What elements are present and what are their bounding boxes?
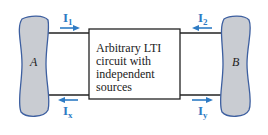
box-description: Arbitrary LTI circuit with independent s… — [96, 42, 180, 94]
box-text-line: sources — [96, 81, 180, 94]
network-a-label: A — [30, 55, 37, 70]
current-label-i2: I2 — [198, 11, 208, 27]
current-label-iy: Iy — [198, 104, 208, 120]
network-b-label: B — [232, 55, 239, 70]
current-label-i1: I1 — [63, 11, 73, 27]
current-label-ix: Ix — [63, 104, 73, 120]
